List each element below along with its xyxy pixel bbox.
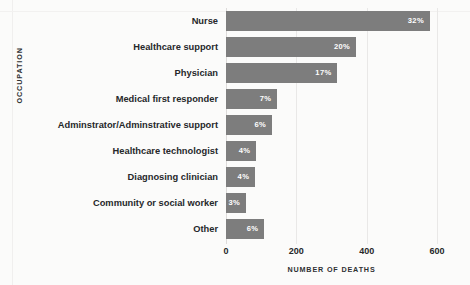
bar-row: 6%: [226, 115, 437, 135]
bars-layer: 32%20%17%7%6%4%4%3%6%: [226, 8, 437, 242]
bar-row: 7%: [226, 89, 437, 109]
y-axis-tick-label: Healthcare support: [133, 37, 218, 57]
gridline-600: [437, 8, 438, 244]
bar-row: 32%: [226, 11, 437, 31]
bar-row: 4%: [226, 141, 437, 161]
x-axis-tick-label: 600: [429, 246, 444, 256]
bar: 20%: [226, 37, 356, 57]
bar-row: 4%: [226, 167, 437, 187]
bar: 4%: [226, 167, 255, 187]
y-axis-tick-labels: NurseHealthcare supportPhysicianMedical …: [26, 8, 222, 242]
y-axis-title: OCCUPATION: [15, 90, 24, 104]
bar-value-label: 4%: [238, 167, 250, 187]
bar: 3%: [226, 193, 246, 213]
bar: 17%: [226, 63, 337, 83]
x-axis-tick-labels: 0200400600: [226, 246, 437, 260]
y-axis-tick-label: Other: [193, 219, 218, 239]
bar: 32%: [226, 11, 430, 31]
bar-value-label: 32%: [408, 11, 424, 31]
y-axis-tick-label: Healthcare technologist: [113, 141, 218, 161]
bar-value-label: 6%: [254, 115, 266, 135]
bar-row: 3%: [226, 193, 437, 213]
bar-value-label: 7%: [260, 89, 272, 109]
bar-row: 17%: [226, 63, 437, 83]
page-edge-vertical: [12, 0, 13, 285]
bar-value-label: 6%: [247, 219, 259, 239]
x-axis-tick-label: 400: [359, 246, 374, 256]
y-axis-tick-label: Diagnosing clinician: [128, 167, 218, 187]
plot-area: 32%20%17%7%6%4%4%3%6%: [226, 8, 437, 242]
bar: 4%: [226, 141, 256, 161]
x-axis-title: NUMBER OF DEATHS: [226, 265, 437, 274]
bar: 7%: [226, 89, 277, 109]
y-axis-tick-label: Nurse: [192, 11, 218, 31]
bar: 6%: [226, 219, 264, 239]
bar-value-label: 17%: [315, 63, 331, 83]
bar-row: 20%: [226, 37, 437, 57]
bar: 6%: [226, 115, 272, 135]
bar-row: 6%: [226, 219, 437, 239]
bar-value-label: 4%: [239, 141, 251, 161]
bar-chart-figure: OCCUPATION NurseHealthcare supportPhysic…: [0, 0, 470, 285]
y-axis-tick-label: Physician: [175, 63, 218, 83]
x-axis-tick-label: 0: [223, 246, 228, 256]
y-axis-tick-label: Medical first responder: [116, 89, 218, 109]
y-axis-tick-label: Adminstrator/Adminstrative support: [58, 115, 218, 135]
x-axis-tick-label: 200: [289, 246, 304, 256]
y-axis-tick-label: Community or social worker: [93, 193, 218, 213]
bar-value-label: 3%: [228, 193, 240, 213]
bar-value-label: 20%: [334, 37, 350, 57]
